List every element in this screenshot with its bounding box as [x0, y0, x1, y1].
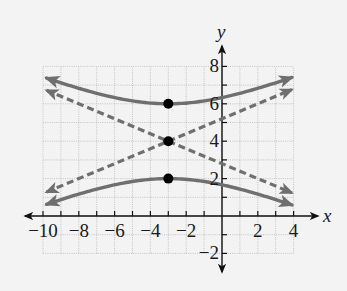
- x-tick-label: −2: [176, 220, 196, 241]
- x-axis-label: x: [322, 205, 332, 226]
- point-marker: [163, 136, 173, 146]
- y-tick-label: 6: [210, 93, 220, 114]
- points: [163, 99, 173, 184]
- x-tick-label: 4: [289, 220, 299, 241]
- point-marker: [163, 174, 173, 184]
- x-tick-label: −4: [140, 220, 161, 241]
- hyperbola-graph: −10−8−6−4−224−22468 x y: [0, 0, 347, 291]
- x-tick-label: −6: [104, 220, 124, 241]
- y-tick-label: −2: [199, 242, 219, 263]
- point-marker: [163, 99, 173, 109]
- x-tick-label: 2: [253, 220, 263, 241]
- y-axis-label: y: [215, 21, 226, 42]
- y-tick-label: 2: [210, 168, 220, 189]
- y-tick-label: 8: [210, 55, 220, 76]
- y-tick-label: 4: [210, 130, 220, 151]
- x-tick-label: −10: [28, 220, 58, 241]
- x-tick-label: −8: [69, 220, 89, 241]
